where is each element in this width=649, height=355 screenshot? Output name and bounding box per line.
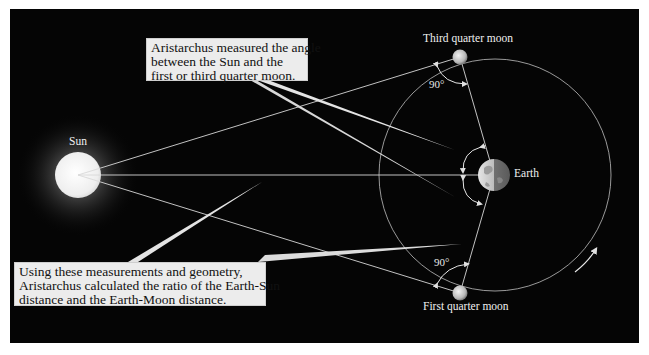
third-quarter-moon-label: Third quarter moon [423,32,513,44]
sun-label: Sun [69,135,87,147]
angle-arc-earth-upper [463,147,481,172]
angle-label-top: 90° [429,78,444,90]
bottom-callout-pointer-2 [258,244,462,262]
angle-label-bottom: 90° [434,256,449,268]
bottom-callout-pointer-1 [128,182,262,262]
bottom-callout-line-2: Aristarchus calculated the ratio of the … [19,279,261,293]
third-quarter-moon [453,50,468,65]
third-moon-to-earth-line [460,57,494,175]
top-callout-line-3: first or third quarter moon. [151,69,303,83]
earth [478,159,510,191]
angle-arc-earth-lower [463,179,481,204]
earth-label: Earth [514,167,539,179]
first-quarter-moon [453,286,468,301]
top-callout-line-2: between the Sun and the [151,55,303,69]
top-callout-line-1: Aristarchus measured the angle [151,41,303,55]
orbit-direction-arrow-icon [575,249,596,272]
bottom-callout-line-3: distance and the Earth-Moon distance. [19,293,261,307]
bottom-callout-box: Using these measurements and geometry, A… [14,262,266,306]
bottom-callout-line-1: Using these measurements and geometry, [19,265,261,279]
first-quarter-moon-label: First quarter moon [423,300,509,312]
top-callout-box: Aristarchus measured the angle between t… [146,38,308,81]
